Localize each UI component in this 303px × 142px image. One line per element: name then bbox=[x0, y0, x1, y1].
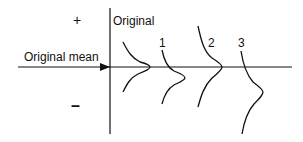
curve-label-1: 1 bbox=[159, 37, 166, 49]
curve-3 bbox=[241, 51, 263, 134]
minus-label: – bbox=[71, 100, 80, 112]
plus-label: + bbox=[73, 14, 81, 26]
curve-label-3: 3 bbox=[238, 37, 245, 49]
curve-label-2: 2 bbox=[208, 37, 215, 49]
original-mean-label: Original mean bbox=[24, 51, 99, 63]
arrow-head-icon bbox=[100, 63, 110, 71]
curve-label-original: Original bbox=[113, 15, 154, 27]
curve-1 bbox=[162, 50, 185, 104]
